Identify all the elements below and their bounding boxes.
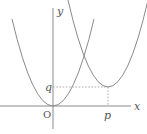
p-label: p xyxy=(104,109,111,122)
coordinate-diagram: y x O q p xyxy=(0,0,147,134)
x-axis-label: x xyxy=(134,100,141,113)
q-label: q xyxy=(45,81,52,94)
origin-label: O xyxy=(43,109,51,120)
y-axis-label: y xyxy=(56,5,64,18)
parabola-translated xyxy=(68,0,147,87)
